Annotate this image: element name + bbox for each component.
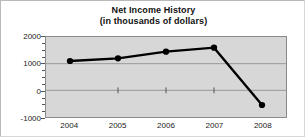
y-tick-label: 2000 (1, 32, 41, 41)
x-tick-label: 2006 (144, 121, 188, 130)
x-tick-label: 2007 (192, 121, 236, 130)
gridlines (46, 64, 286, 91)
chart-title: Net Income History (1, 5, 305, 16)
data-point-marker (211, 45, 217, 51)
data-point-marker (115, 55, 121, 61)
chart-title-block: Net Income History (in thousands of doll… (1, 5, 305, 27)
x-tick-label: 2005 (96, 121, 140, 130)
y-tick-label: 1000 (1, 59, 41, 68)
data-line (70, 48, 262, 105)
x-tick-label: 2004 (47, 121, 91, 130)
chart-figure: Net Income History (in thousands of doll… (0, 0, 305, 137)
y-tick-label: -1000 (1, 114, 41, 123)
chart-subtitle: (in thousands of dollars) (1, 16, 305, 27)
x-tick-label: 2008 (241, 121, 285, 130)
plot-svg (46, 37, 286, 117)
data-point-marker (163, 49, 169, 55)
y-major-tick (41, 118, 45, 119)
y-tick-label: 0 (1, 86, 41, 95)
data-point-marker (259, 102, 265, 108)
data-point-marker (67, 58, 73, 64)
plot-area (45, 36, 287, 118)
data-markers (67, 45, 265, 109)
